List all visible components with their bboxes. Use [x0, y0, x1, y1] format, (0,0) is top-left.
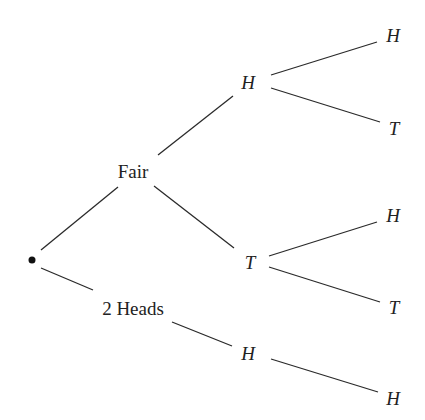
node-fair-t: T	[245, 253, 256, 272]
node-2-heads: 2 Heads	[102, 299, 164, 318]
leaf-2heads-h-h: H	[386, 389, 400, 408]
leaf-fair-t-t: T	[389, 298, 400, 317]
edge-fair-h	[158, 96, 233, 155]
leaf-fair-h-t: T	[389, 119, 400, 138]
edge-fair-t-t	[269, 267, 380, 302]
root-node-dot	[29, 257, 36, 264]
node-2heads-h: H	[241, 344, 255, 363]
edge-root-2heads	[41, 268, 93, 290]
edge-fair-t	[154, 186, 234, 248]
tree-diagram	[0, 0, 425, 420]
edge-root-fair	[41, 187, 118, 250]
node-fair-h: H	[241, 73, 255, 92]
edge-fair-h-h	[271, 42, 377, 75]
leaf-fair-t-h: H	[386, 206, 400, 225]
edge-2heads-h	[172, 322, 232, 346]
edge-2heads-h-h	[271, 359, 378, 392]
leaf-fair-h-h: H	[386, 26, 400, 45]
edge-fair-t-h	[269, 222, 377, 256]
edge-fair-h-t	[271, 88, 380, 122]
node-fair: Fair	[118, 162, 149, 181]
